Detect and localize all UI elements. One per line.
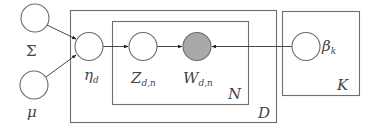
node-w-observed — [183, 33, 211, 61]
plate-diagram: Σ μ ηd Zd,n Wd,n βk N D K — [0, 0, 376, 132]
plate-label-d: D — [257, 104, 270, 122]
node-mu — [20, 71, 48, 99]
label-w: Wd,n — [183, 69, 213, 88]
plate-label-n: N — [227, 85, 242, 103]
edge-sigma-eta — [47, 25, 76, 39]
label-eta: ηd — [84, 66, 99, 85]
node-beta — [292, 33, 320, 61]
node-z — [129, 33, 157, 61]
label-z: Zd,n — [130, 69, 156, 88]
node-eta — [75, 33, 103, 61]
plate-label-k: K — [336, 76, 349, 94]
plate-d — [71, 11, 277, 123]
label-mu: μ — [27, 103, 37, 121]
node-sigma — [21, 4, 49, 32]
label-beta: βk — [321, 37, 336, 56]
edge-mu-eta — [46, 55, 76, 77]
label-sigma: Σ — [26, 42, 37, 60]
